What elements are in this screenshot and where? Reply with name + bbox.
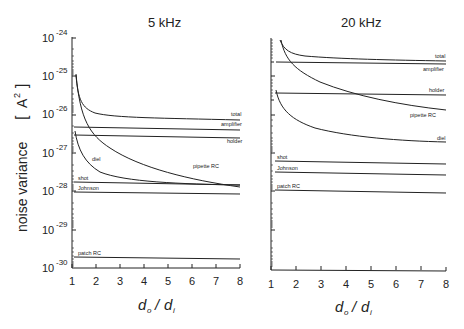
svg-text:i: i bbox=[173, 306, 175, 315]
label-johnson: Johnson bbox=[277, 165, 298, 171]
panel-20khz: 20 kHz 1 2 3 4 5 6 7 8 bbox=[268, 15, 449, 317]
x-tick-label: 8 bbox=[443, 278, 449, 290]
label-pipette-rc: pipette RC bbox=[410, 112, 436, 118]
curve-pipette-rc bbox=[281, 40, 446, 110]
svg-text:10: 10 bbox=[42, 262, 54, 274]
label-johnson: Johnson bbox=[78, 185, 99, 191]
svg-text:-29: -29 bbox=[56, 220, 68, 229]
label-shot: shot bbox=[78, 175, 89, 181]
svg-text:2: 2 bbox=[12, 93, 22, 98]
panel-title: 20 kHz bbox=[341, 15, 381, 30]
svg-text:o: o bbox=[147, 306, 152, 315]
curve-holder bbox=[74, 135, 240, 138]
y-tick-label: 10-26 bbox=[42, 104, 68, 120]
label-total: total bbox=[435, 53, 445, 59]
svg-text:-26: -26 bbox=[56, 104, 68, 113]
x-tick-label: 7 bbox=[213, 275, 219, 287]
svg-text:A: A bbox=[14, 98, 30, 108]
x-axis-label: d o / d i bbox=[335, 298, 372, 317]
curve-johnson bbox=[74, 192, 240, 194]
x-tick-label: 3 bbox=[318, 278, 324, 290]
svg-text:10: 10 bbox=[42, 70, 54, 82]
y-tick-label: 10-27 bbox=[42, 143, 68, 159]
svg-text:-30: -30 bbox=[56, 258, 68, 267]
figure: noise variance [ A 2 ] 5 kHz 10-24 10-25… bbox=[0, 0, 464, 329]
svg-text:d: d bbox=[361, 298, 370, 315]
curve-total bbox=[76, 75, 240, 120]
label-shot: shot bbox=[277, 154, 288, 160]
curve-pipette-rc bbox=[76, 74, 240, 187]
panel-5khz: 5 kHz 10-24 10-25 10-26 10-27 10-28 10-2… bbox=[42, 15, 243, 315]
svg-text:i: i bbox=[370, 308, 372, 317]
label-amplifier: amplifier bbox=[423, 66, 444, 72]
series-labels: total amplifier holder pipette RC diel s… bbox=[277, 53, 446, 189]
curve-amplifier bbox=[276, 62, 446, 64]
label-patch-rc: patch RC bbox=[78, 250, 101, 256]
panel-title: 5 kHz bbox=[148, 15, 181, 30]
svg-text:d: d bbox=[138, 296, 147, 313]
x-tick-label: 2 bbox=[293, 278, 299, 290]
x-tick-label: 2 bbox=[93, 275, 99, 287]
svg-text:-28: -28 bbox=[56, 181, 68, 190]
x-tick-label: 1 bbox=[268, 278, 274, 290]
label-amplifier: amplifier bbox=[221, 121, 242, 127]
curve-total bbox=[280, 40, 446, 61]
x-tick-label: 8 bbox=[237, 275, 243, 287]
curve-johnson bbox=[275, 172, 446, 175]
y-tick-label: 10-30 bbox=[42, 258, 68, 274]
svg-text:10: 10 bbox=[42, 147, 54, 159]
y-tick-label: 10-29 bbox=[42, 220, 68, 236]
label-diel: diel bbox=[92, 156, 101, 162]
label-holder: holder bbox=[429, 87, 444, 93]
x-tick-label: 7 bbox=[418, 278, 424, 290]
axes bbox=[72, 37, 240, 268]
svg-text:-27: -27 bbox=[56, 143, 68, 152]
y-tick-labels: 10-24 10-25 10-26 10-27 10-28 10-29 10-3… bbox=[42, 28, 68, 274]
y-tick-label: 10-25 bbox=[42, 66, 68, 82]
svg-text:-25: -25 bbox=[56, 66, 68, 75]
label-diel: diel bbox=[437, 135, 446, 141]
svg-text:/: / bbox=[154, 296, 161, 313]
x-tick-label: 3 bbox=[117, 275, 123, 287]
svg-text:o: o bbox=[344, 308, 349, 317]
svg-text:/: / bbox=[351, 298, 358, 315]
svg-text:10: 10 bbox=[42, 32, 54, 44]
svg-text:d: d bbox=[164, 296, 173, 313]
svg-text:10: 10 bbox=[42, 108, 54, 120]
x-tick-label: 6 bbox=[189, 275, 195, 287]
curve-patch-rc bbox=[74, 257, 240, 259]
svg-text:10: 10 bbox=[42, 224, 54, 236]
x-axis-label: d o / d i bbox=[138, 296, 175, 315]
x-tick-label: 6 bbox=[393, 278, 399, 290]
label-total: total bbox=[231, 111, 241, 117]
svg-text:[: [ bbox=[13, 115, 30, 120]
x-tick-labels: 1 2 3 4 5 6 7 8 bbox=[268, 278, 449, 290]
curve-shot bbox=[275, 161, 446, 164]
svg-text:d: d bbox=[335, 298, 344, 315]
x-tick-label: 5 bbox=[165, 275, 171, 287]
axes bbox=[271, 38, 446, 271]
curve-amplifier bbox=[74, 127, 240, 130]
y-tick-label: 10-28 bbox=[42, 181, 68, 197]
x-tick-label: 1 bbox=[69, 275, 75, 287]
svg-text:]: ] bbox=[13, 84, 30, 88]
x-tick-label: 4 bbox=[343, 278, 349, 290]
x-tick-label: 5 bbox=[368, 278, 374, 290]
curve-patch-rc bbox=[275, 190, 446, 193]
x-tick-label: 4 bbox=[141, 275, 147, 287]
label-patch-rc: patch RC bbox=[277, 183, 300, 189]
label-pipette-rc: pipette RC bbox=[193, 163, 219, 169]
y-axis-label: noise variance [ A 2 ] bbox=[12, 84, 30, 232]
x-tick-labels: 1 2 3 4 5 6 7 8 bbox=[69, 275, 243, 287]
svg-text:10: 10 bbox=[42, 185, 54, 197]
y-tick-label: 10-24 bbox=[42, 28, 68, 44]
svg-text:noise variance: noise variance bbox=[14, 142, 30, 232]
label-holder: holder bbox=[227, 138, 242, 144]
svg-text:-24: -24 bbox=[56, 28, 68, 37]
